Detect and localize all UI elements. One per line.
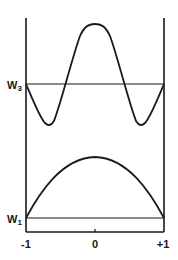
wavefunction-level-1 (26, 157, 164, 218)
x-tick-label-0: 0 (92, 238, 98, 250)
diagram-canvas: W3 W1 -1 0 +1 (0, 0, 178, 260)
x-tick-label-plus1: +1 (157, 238, 170, 250)
level-w1-label: W1 (7, 213, 22, 227)
x-tick-label-minus1: -1 (21, 238, 31, 250)
level-w3-label: W3 (7, 79, 22, 93)
wavefunction-level-3 (26, 24, 164, 125)
